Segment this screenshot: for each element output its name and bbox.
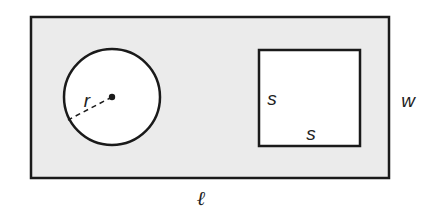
geometry-diagram [0, 0, 438, 219]
radius-label: r [84, 91, 90, 110]
square-side-bottom-label: s [306, 124, 316, 143]
width-label: w [401, 91, 415, 110]
circle-center-dot [109, 94, 115, 100]
square-side-left-label: s [267, 89, 277, 108]
length-label: ℓ [197, 188, 205, 208]
